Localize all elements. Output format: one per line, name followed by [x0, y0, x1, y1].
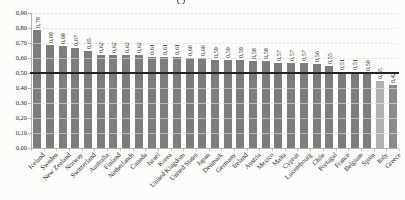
bar-value-label: 0,50 — [364, 60, 371, 71]
y-axis-label: 0,10 — [0, 129, 27, 136]
bar-value-label: 0,57 — [288, 50, 295, 61]
bar-value-label: 0,62 — [110, 42, 117, 53]
bar-value-label: 0,62 — [123, 42, 130, 53]
x-axis-line — [31, 148, 399, 149]
bar-value-label: 0,61 — [173, 44, 180, 55]
x-axis-tick — [221, 149, 222, 151]
cropped-glyph — [177, 0, 185, 4]
bar — [122, 55, 130, 148]
x-axis-tick — [323, 149, 324, 151]
y-axis-label: 0,90 — [0, 9, 27, 16]
bar — [97, 55, 105, 148]
x-axis-tick — [158, 149, 159, 151]
bar — [376, 81, 384, 149]
bar — [249, 61, 257, 148]
x-axis-tick — [272, 149, 273, 151]
bar — [135, 55, 143, 148]
bar — [46, 45, 54, 149]
reference-line — [30, 72, 399, 74]
x-axis-tick — [133, 149, 134, 151]
bar-value-label: 0,51 — [351, 59, 358, 70]
bar-value-label: 0,62 — [135, 42, 142, 53]
bar-value-label: 0,67 — [72, 35, 79, 46]
bar-value-label: 0,60 — [199, 45, 206, 56]
bar-value-label: 0,57 — [300, 50, 307, 61]
x-axis-tick — [336, 149, 337, 151]
bar-value-label: 0,60 — [186, 45, 193, 56]
x-axis-tick — [120, 149, 121, 151]
bar — [33, 30, 41, 149]
bar-value-label: 0,79 — [34, 17, 41, 28]
x-axis-tick — [56, 149, 57, 151]
bar-value-label: 0,59 — [212, 47, 219, 58]
y-axis-label: 0,70 — [0, 39, 27, 46]
x-axis-tick — [259, 149, 260, 151]
bar-value-label: 0,56 — [313, 51, 320, 62]
bar — [274, 63, 282, 149]
bar — [389, 85, 397, 148]
x-axis-tick — [361, 149, 362, 151]
y-axis-label: 0,30 — [0, 99, 27, 106]
bar — [313, 64, 321, 148]
bar-value-label: 0,58 — [250, 48, 257, 59]
bar — [287, 63, 295, 149]
bar — [173, 57, 181, 149]
x-axis-tick — [310, 149, 311, 151]
y-axis-label: 0,20 — [0, 114, 27, 121]
x-axis-tick — [285, 149, 286, 151]
bar-value-label: 0,68 — [59, 33, 66, 44]
y-axis-label: 0,00 — [0, 144, 27, 151]
x-axis-tick — [374, 149, 375, 151]
x-axis-tick — [94, 149, 95, 151]
y-axis-label: 0,60 — [0, 54, 27, 61]
y-axis-label: 0,40 — [0, 84, 27, 91]
x-axis-tick — [145, 149, 146, 151]
bar-value-label: 0,69 — [47, 32, 54, 43]
bar-value-label: 0,59 — [237, 47, 244, 58]
x-axis-tick — [399, 149, 400, 151]
bar — [338, 72, 346, 149]
x-axis-tick — [107, 149, 108, 151]
bar — [262, 61, 270, 148]
x-axis-tick — [31, 149, 32, 151]
x-axis-tick — [297, 149, 298, 151]
gridline — [31, 13, 399, 14]
x-axis-tick — [234, 149, 235, 151]
bar — [109, 55, 117, 148]
bar-chart-figure: 0,000,100,200,300,400,500,600,700,800,90… — [0, 0, 405, 200]
bar-value-label: 0,51 — [338, 59, 345, 70]
bar — [59, 46, 67, 148]
gridline — [31, 28, 399, 29]
bar — [71, 48, 79, 149]
bar-value-label: 0,62 — [97, 42, 104, 53]
bar-value-label: 0,55 — [326, 53, 333, 64]
bar-value-label: 0,42 — [389, 72, 396, 83]
x-axis-tick — [209, 149, 210, 151]
cropped-title-fragment — [176, 0, 185, 4]
x-axis-tick — [82, 149, 83, 151]
x-axis-tick — [247, 149, 248, 151]
y-axis-label: 0,50 — [0, 69, 27, 76]
x-axis-tick — [171, 149, 172, 151]
bar — [363, 73, 371, 148]
bar — [160, 57, 168, 149]
bar-value-label: 0,58 — [262, 48, 269, 59]
y-axis-label: 0,80 — [0, 24, 27, 31]
x-axis-tick — [69, 149, 70, 151]
bar-value-label: 0,57 — [275, 50, 282, 61]
bar — [84, 51, 92, 149]
x-axis-tick — [386, 149, 387, 151]
x-axis-tick — [44, 149, 45, 151]
bar — [351, 72, 359, 149]
bar-value-label: 0,65 — [85, 38, 92, 49]
x-axis-tick — [348, 149, 349, 151]
bar-value-label: 0,61 — [161, 44, 168, 55]
x-axis-tick — [183, 149, 184, 151]
bar-value-label: 0,59 — [224, 47, 231, 58]
y-axis-line — [31, 13, 32, 149]
bar — [148, 57, 156, 149]
x-axis-tick — [196, 149, 197, 151]
bar — [325, 66, 333, 149]
bar-value-label: 0,45 — [376, 68, 383, 79]
bar — [300, 63, 308, 149]
